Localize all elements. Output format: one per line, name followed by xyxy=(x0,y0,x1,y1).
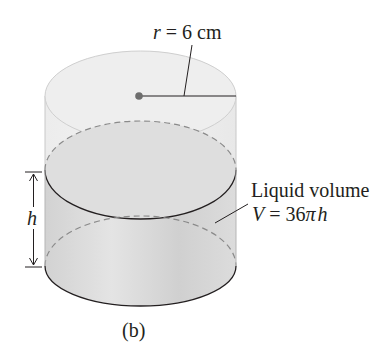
height-label: h xyxy=(27,208,37,228)
volume-var: V xyxy=(252,203,264,225)
radius-eq: = xyxy=(166,21,177,43)
radius-label: r = 6 cm xyxy=(153,22,222,42)
volume-pi: π xyxy=(306,203,316,225)
volume-formula: V = 36πh xyxy=(252,204,328,224)
cylinder-diagram: r = 6 cm h Liquid volume V = 36πh (b) xyxy=(0,0,387,359)
volume-coef: 36 xyxy=(286,203,306,225)
center-dot xyxy=(135,92,143,100)
radius-value: 6 cm xyxy=(182,21,221,43)
radius-var: r xyxy=(153,21,161,43)
volume-eq: = xyxy=(269,203,280,225)
volume-h: h xyxy=(318,203,328,225)
figure-caption: (b) xyxy=(122,320,145,340)
volume-title: Liquid volume xyxy=(251,180,369,200)
liquid-body xyxy=(45,121,236,306)
